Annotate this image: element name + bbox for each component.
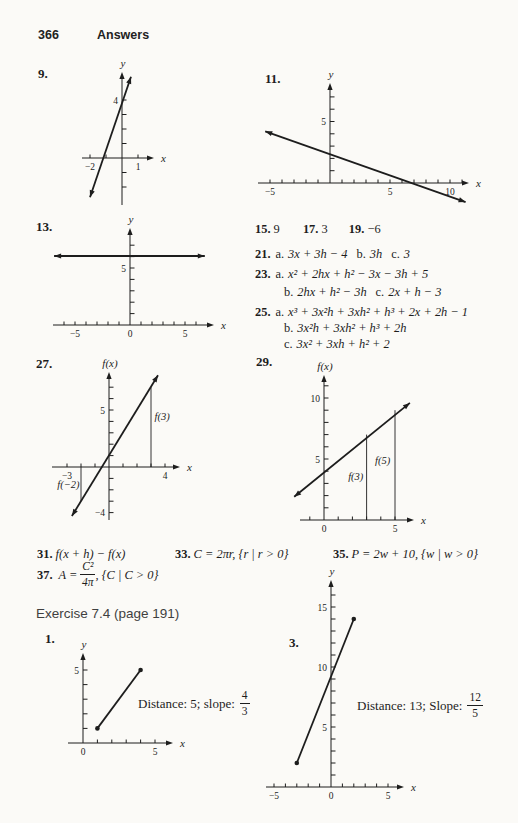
- plotted-line: [72, 375, 158, 516]
- x-axis-label: x: [475, 177, 481, 189]
- answers-block-15-25: 15. 9 17. 3 19. −6 21.a.3x + 3h − 4b.3hc…: [253, 218, 517, 358]
- arrowhead-icon: [207, 322, 214, 327]
- plotted-line: [265, 131, 465, 202]
- x-tick-label: 5: [183, 329, 188, 339]
- answer-value: 9: [274, 222, 280, 236]
- arrowhead-icon: [265, 131, 273, 136]
- arrowhead-icon: [72, 509, 78, 516]
- part-label: a.: [276, 247, 285, 261]
- data-point: [295, 761, 300, 766]
- x-axis-label: x: [179, 737, 185, 749]
- expression: x² + 2hx + h² − 3x − 3h + 5: [288, 267, 428, 281]
- data-point: [95, 726, 100, 731]
- part-label: a.: [276, 305, 285, 319]
- graph-9: xy−214: [55, 58, 195, 210]
- answer-37: 37. A = C² 4π , {C | C > 0}: [37, 561, 158, 588]
- x-tick-label: −5: [269, 791, 279, 801]
- problem-label-9: 9.: [38, 66, 48, 82]
- answer-number: 25.: [255, 305, 271, 319]
- answer-row-15-19: 15. 9 17. 3 19. −6: [255, 221, 381, 237]
- fraction: 12 5: [467, 692, 483, 719]
- expression: , {C | C > 0}: [95, 567, 158, 583]
- arrowhead-icon: [106, 372, 111, 379]
- function-value-label: f(3): [155, 411, 171, 423]
- graph-11: xy−55105: [252, 72, 492, 212]
- x-axis-label: x: [410, 781, 416, 793]
- part-label: b.: [357, 247, 366, 261]
- x-tick-label: 0: [322, 524, 327, 534]
- x-axis-label: x: [186, 461, 192, 473]
- page-number: 366: [38, 28, 59, 42]
- answer-value: −6: [367, 222, 380, 236]
- graph-27: xf(x)−345−4f(3)f(−2): [28, 355, 200, 532]
- y-tick-label: 10: [318, 663, 328, 673]
- y-tick-label: 5: [100, 406, 105, 416]
- expression: 3x²h + 3xh² + h³ + 2h: [297, 321, 406, 335]
- fraction-denominator: 4π: [82, 575, 94, 588]
- expression: 3h: [370, 247, 382, 261]
- part-label: b.: [284, 285, 293, 299]
- fraction: 4 3: [240, 690, 250, 717]
- plotted-line: [297, 619, 354, 763]
- x-tick-label: 0: [81, 747, 86, 757]
- fraction-numerator: 4: [240, 690, 250, 704]
- answer-33: 33. C = 2πr, {r | r > 0}: [175, 546, 288, 562]
- answer-number: 33.: [175, 547, 191, 561]
- expression: 3: [404, 247, 410, 261]
- answer-number: 15.: [255, 222, 271, 236]
- x-tick-label: 5: [386, 791, 391, 801]
- answer-number: 35.: [333, 547, 349, 561]
- answer-number: 31.: [37, 547, 53, 561]
- arrowhead-icon: [119, 72, 124, 79]
- arrowhead-icon: [328, 580, 333, 587]
- expression: x³ + 3x²h + 3xh² + h³ + 2x + 2h − 1: [288, 305, 468, 319]
- y-tick-label: 5: [315, 455, 320, 465]
- y-tick-label: −4: [95, 508, 105, 518]
- y-tick-label: 10: [311, 394, 321, 404]
- arrowhead-icon: [152, 375, 158, 382]
- fraction: C² 4π: [80, 561, 95, 588]
- expression: 3x² + 3xh + h² + 2: [297, 337, 390, 351]
- expression: f(x + h) − f(x): [56, 547, 126, 561]
- x-axis-label: x: [420, 514, 426, 526]
- answer-25-line-c: c.3x² + 3xh + h² + 2: [255, 336, 390, 352]
- exercise-heading: Exercise 7.4 (page 191): [36, 606, 179, 621]
- graph-29: xf(x)05510f(3)f(5): [264, 358, 434, 533]
- y-tick-label: 5: [321, 117, 326, 127]
- y-tick-label: 5: [322, 723, 327, 733]
- answer-21: 21.a.3x + 3h − 4b.3hc.3: [255, 246, 410, 262]
- annotation-distance-slope-3: Distance: 13; Slope: 12 5: [357, 692, 483, 719]
- part-label: c.: [391, 247, 400, 261]
- answer-25-line-a: 25.a.x³ + 3x²h + 3xh² + h³ + 2x + 2h − 1: [255, 304, 468, 320]
- data-point: [352, 617, 357, 622]
- expression: C = 2πr, {r | r > 0}: [194, 547, 289, 561]
- y-tick-label: 4: [113, 96, 118, 106]
- part-label: a.: [276, 267, 285, 281]
- answer-number: 17.: [303, 222, 319, 236]
- arrowhead-icon: [166, 740, 173, 745]
- arrowhead-icon: [126, 77, 131, 85]
- x-tick-label: −5: [265, 187, 275, 197]
- answer-number: 19.: [349, 222, 365, 236]
- fraction-denominator: 5: [472, 706, 478, 719]
- y-tick-label: 15: [318, 603, 328, 613]
- arrowhead-icon: [173, 464, 180, 469]
- answer-35: 35. P = 2w + 10, {w | w > 0}: [333, 546, 478, 562]
- arrowhead-icon: [458, 197, 466, 202]
- function-value-label: f(5): [375, 455, 391, 467]
- annotation-text: Distance: 13; Slope:: [357, 698, 462, 714]
- expression: 2x + h − 3: [388, 285, 441, 299]
- arrowhead-icon: [80, 653, 85, 660]
- y-axis-label: y: [81, 638, 87, 650]
- arrowhead-icon: [127, 228, 132, 235]
- fraction-numerator: 12: [467, 692, 483, 706]
- arrowhead-icon: [147, 155, 154, 160]
- fraction-denominator: 3: [242, 704, 248, 717]
- x-tick-label: −5: [70, 329, 80, 339]
- answer-31: 31. f(x + h) − f(x): [37, 546, 125, 562]
- data-point: [138, 668, 143, 673]
- fraction-numerator: C²: [80, 561, 95, 575]
- y-axis-label: f(x): [317, 360, 333, 373]
- plotted-line: [97, 670, 140, 728]
- part-label: c.: [376, 285, 385, 299]
